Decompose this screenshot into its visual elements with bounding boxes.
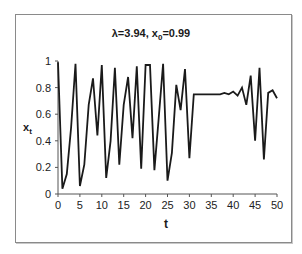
x-tick-label: 45 xyxy=(249,199,261,211)
x-tick-label: 50 xyxy=(271,199,283,211)
y-tick-label: 0 xyxy=(45,188,51,200)
y-tick-label: 0.2 xyxy=(36,161,51,173)
x-tick-label: 10 xyxy=(96,199,108,211)
x-tick-label: 15 xyxy=(118,199,130,211)
y-tick-label: 0.4 xyxy=(36,135,51,147)
x-tick-label: 0 xyxy=(55,199,61,211)
x-tick-label: 20 xyxy=(139,199,151,211)
x-tick-label: 30 xyxy=(183,199,195,211)
y-tick-label: 0.8 xyxy=(36,82,51,94)
x-tick-label: 35 xyxy=(205,199,217,211)
series-line-x_t xyxy=(58,62,277,188)
x-tick-label: 5 xyxy=(77,199,83,211)
plot-area: 00.20.40.60.8105101520253035404550 xyxy=(0,0,302,254)
y-tick-label: 1 xyxy=(45,55,51,67)
x-tick-label: 25 xyxy=(161,199,173,211)
y-tick-label: 0.6 xyxy=(36,108,51,120)
x-tick-label: 40 xyxy=(227,199,239,211)
